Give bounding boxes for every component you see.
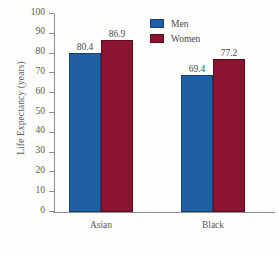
bar-men-asian: 80.4 <box>69 53 101 212</box>
y-axis-tick: 100 <box>49 13 54 14</box>
y-axis-tick-label: 90 <box>36 26 46 36</box>
bar-value-label: 69.4 <box>189 64 206 74</box>
y-axis-tick-label: 100 <box>31 7 45 17</box>
bar-value-label: 80.4 <box>77 42 94 52</box>
y-axis-tick-label: 0 <box>40 205 45 215</box>
bar-chart: Life Expectancy (years) 0102030405060708… <box>0 0 278 253</box>
y-axis-tick: 40 <box>49 132 54 133</box>
legend-item-men: Men <box>150 17 200 30</box>
y-axis-tick-label: 10 <box>36 185 46 195</box>
bar-men-black: 69.4 <box>181 75 213 212</box>
legend-swatch-icon-women <box>150 34 164 43</box>
y-axis-tick-label: 50 <box>36 106 46 116</box>
y-axis-tick-label: 20 <box>36 165 46 175</box>
y-axis-tick: 30 <box>49 152 54 153</box>
x-axis-label-asian: Asian <box>90 220 112 230</box>
y-axis-tick: 0 <box>49 211 54 212</box>
y-axis-tick: 80 <box>49 53 54 54</box>
legend: Men Women <box>150 17 200 47</box>
bar-women-black: 77.2 <box>213 59 245 212</box>
y-axis-tick-label: 40 <box>36 125 46 135</box>
y-axis-tick: 60 <box>49 92 54 93</box>
bar-women-asian: 86.9 <box>101 40 133 212</box>
y-axis-tick-label: 80 <box>36 46 46 56</box>
y-axis-tick-label: 70 <box>36 66 46 76</box>
legend-label-men: Men <box>171 19 188 29</box>
bar-value-label: 77.2 <box>221 48 238 58</box>
y-axis-title: Life Expectancy (years) <box>16 33 26 183</box>
x-axis-label-black: Black <box>202 220 224 230</box>
legend-item-women: Women <box>150 32 200 45</box>
bar-value-label: 86.9 <box>109 29 126 39</box>
x-axis-line <box>53 212 275 213</box>
y-axis-tick: 90 <box>49 33 54 34</box>
y-axis-line <box>54 14 55 212</box>
y-axis-tick: 50 <box>49 112 54 113</box>
y-axis-tick-label: 30 <box>36 145 46 155</box>
y-axis-tick: 10 <box>49 191 54 192</box>
legend-label-women: Women <box>171 34 200 44</box>
y-axis-tick: 20 <box>49 171 54 172</box>
y-axis-tick: 70 <box>49 72 54 73</box>
y-axis-tick-label: 60 <box>36 86 46 96</box>
legend-swatch-icon-men <box>150 19 164 28</box>
